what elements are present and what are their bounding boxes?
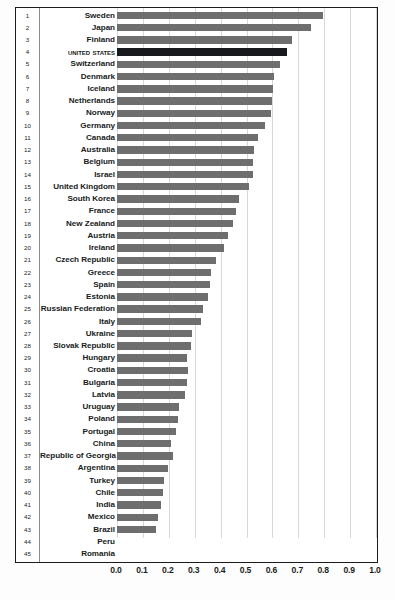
x-axis-tick-label: 0.8 bbox=[318, 565, 329, 575]
country-label: Ukraine bbox=[40, 328, 115, 340]
rank-number: 43 bbox=[16, 524, 39, 536]
x-axis-tick-label: 1.0 bbox=[369, 565, 380, 575]
rank-number: 40 bbox=[16, 487, 39, 499]
chart-frame: 1Sweden2Japan3Finland4United States5Swit… bbox=[15, 7, 378, 563]
chart-row: 40Chile bbox=[16, 487, 377, 499]
rank-number: 26 bbox=[16, 316, 39, 328]
country-label: Czech Republic bbox=[40, 254, 115, 266]
country-label: Italy bbox=[40, 316, 115, 328]
country-label: Russian Federation bbox=[40, 303, 115, 315]
chart-row: 15United Kingdom bbox=[16, 181, 377, 193]
rank-number: 3 bbox=[16, 34, 39, 46]
rank-number: 23 bbox=[16, 279, 39, 291]
rank-number: 9 bbox=[16, 107, 39, 119]
rank-number: 19 bbox=[16, 230, 39, 242]
chart-row: 18New Zealand bbox=[16, 218, 377, 230]
country-label: Belgium bbox=[40, 156, 115, 168]
rank-number: 30 bbox=[16, 364, 39, 376]
rank-number: 1 bbox=[16, 10, 39, 22]
rank-number: 44 bbox=[16, 536, 39, 548]
country-label: Chile bbox=[40, 487, 115, 499]
country-label: South Korea bbox=[40, 193, 115, 205]
chart-row: 14Israel bbox=[16, 169, 377, 181]
chart-row: 19Austria bbox=[16, 230, 377, 242]
country-label: Norway bbox=[40, 107, 115, 119]
country-label: Canada bbox=[40, 132, 115, 144]
bar-chart: 1Sweden2Japan3Finland4United States5Swit… bbox=[0, 0, 395, 600]
country-label: Latvia bbox=[40, 389, 115, 401]
rank-number: 41 bbox=[16, 499, 39, 511]
chart-row: 24Estonia bbox=[16, 291, 377, 303]
country-label: Spain bbox=[40, 279, 115, 291]
country-label: Switzerland bbox=[40, 58, 115, 70]
rank-number: 15 bbox=[16, 181, 39, 193]
chart-row: 2Japan bbox=[16, 22, 377, 34]
chart-row: 10Germany bbox=[16, 120, 377, 132]
chart-row: 45Romania bbox=[16, 548, 377, 560]
chart-row: 36China bbox=[16, 438, 377, 450]
rank-number: 42 bbox=[16, 511, 39, 523]
chart-row: 7Iceland bbox=[16, 83, 377, 95]
rank-number: 21 bbox=[16, 254, 39, 266]
country-label: Bulgaria bbox=[40, 377, 115, 389]
rank-number: 37 bbox=[16, 450, 39, 462]
chart-row: 17France bbox=[16, 205, 377, 217]
chart-row: 12Australia bbox=[16, 144, 377, 156]
country-label: Slovak Republic bbox=[40, 340, 115, 352]
country-label: Australia bbox=[40, 144, 115, 156]
country-label: France bbox=[40, 205, 115, 217]
x-axis-tick-label: 0.0 bbox=[110, 565, 121, 575]
chart-row: 26Italy bbox=[16, 316, 377, 328]
rank-column-divider bbox=[39, 8, 40, 562]
rows-area: 1Sweden2Japan3Finland4United States5Swit… bbox=[16, 8, 377, 562]
rank-number: 45 bbox=[16, 548, 39, 560]
chart-row: 22Greece bbox=[16, 267, 377, 279]
x-axis-tick-label: 0.4 bbox=[214, 565, 225, 575]
chart-row: 23Spain bbox=[16, 279, 377, 291]
chart-row: 21Czech Republic bbox=[16, 254, 377, 266]
country-label: India bbox=[40, 499, 115, 511]
chart-row: 43Brazil bbox=[16, 524, 377, 536]
rank-number: 38 bbox=[16, 462, 39, 474]
country-label: China bbox=[40, 438, 115, 450]
rank-number: 28 bbox=[16, 340, 39, 352]
rank-number: 36 bbox=[16, 438, 39, 450]
chart-row: 41India bbox=[16, 499, 377, 511]
chart-row: 35Portugal bbox=[16, 426, 377, 438]
rank-number: 11 bbox=[16, 132, 39, 144]
country-label: United Kingdom bbox=[40, 181, 115, 193]
country-label: Estonia bbox=[40, 291, 115, 303]
chart-row: 27Ukraine bbox=[16, 328, 377, 340]
chart-row: 13Belgium bbox=[16, 156, 377, 168]
country-label: Denmark bbox=[40, 71, 115, 83]
rank-number: 25 bbox=[16, 303, 39, 315]
rank-number: 27 bbox=[16, 328, 39, 340]
chart-row: 28Slovak Republic bbox=[16, 340, 377, 352]
rank-number: 24 bbox=[16, 291, 39, 303]
x-axis-tick-label: 0.3 bbox=[188, 565, 199, 575]
rank-number: 13 bbox=[16, 156, 39, 168]
rank-number: 10 bbox=[16, 120, 39, 132]
rank-number: 20 bbox=[16, 242, 39, 254]
rank-number: 32 bbox=[16, 389, 39, 401]
chart-row: 8Netherlands bbox=[16, 95, 377, 107]
chart-row: 3Finland bbox=[16, 34, 377, 46]
chart-row: 37Republic of Georgia bbox=[16, 450, 377, 462]
chart-row: 29Hungary bbox=[16, 352, 377, 364]
rank-number: 12 bbox=[16, 144, 39, 156]
country-label: United States bbox=[40, 46, 115, 58]
chart-row: 20Ireland bbox=[16, 242, 377, 254]
chart-row: 9Norway bbox=[16, 107, 377, 119]
chart-row: 34Poland bbox=[16, 413, 377, 425]
country-label: New Zealand bbox=[40, 218, 115, 230]
chart-row: 25Russian Federation bbox=[16, 303, 377, 315]
rank-number: 29 bbox=[16, 352, 39, 364]
chart-row: 5Switzerland bbox=[16, 58, 377, 70]
x-axis-tick-label: 0.9 bbox=[343, 565, 354, 575]
chart-row: 4United States bbox=[16, 46, 377, 58]
country-label: Japan bbox=[40, 22, 115, 34]
x-axis-tick-label: 0.2 bbox=[162, 565, 173, 575]
chart-row: 30Croatia bbox=[16, 364, 377, 376]
x-axis-tick-label: 0.6 bbox=[266, 565, 277, 575]
country-label: Peru bbox=[40, 536, 115, 548]
